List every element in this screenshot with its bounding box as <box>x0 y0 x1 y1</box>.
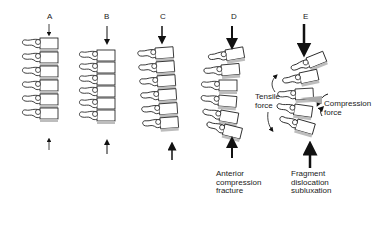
caption-e: Fragmentdislocationsubluxation <box>291 170 331 196</box>
spine-panel-a <box>22 38 58 122</box>
spine-panel-d <box>200 47 245 142</box>
caption-d: Anteriorcompressionfracture <box>216 170 261 196</box>
spine-panel-e <box>276 51 328 137</box>
tensile-force-label: Tensileforce <box>255 93 280 110</box>
tensile-arrow-down <box>268 112 272 130</box>
compression-force-label: Compressionforce <box>324 100 371 117</box>
tensile-arrow-up <box>272 76 276 92</box>
spine-panel-b <box>79 50 115 124</box>
compression-arrow-up <box>321 108 323 116</box>
spine-panel-c <box>137 47 178 133</box>
